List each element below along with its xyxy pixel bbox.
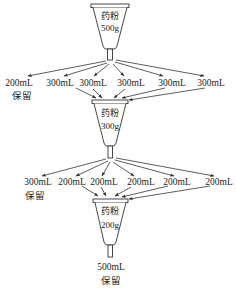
stage-2-output-1: 300mL [24,177,51,187]
funnel-3-label-top: 药粉 [101,206,119,216]
funnel-2-label-top: 药粉 [101,108,119,118]
funnel-2-label-bottom: 300g [101,121,119,131]
funnel-1-label-bottom: 500g [101,23,119,33]
stage-1-kept-note: 保留 [12,91,32,101]
stage-1-output-2: 300mL [46,78,73,88]
stage-2-output-2: 200mL [58,177,85,187]
stage-1-output-4: 300mL [117,78,144,88]
stage-1-output-6: 300mL [197,78,224,88]
arrows-stage-3-in [82,186,210,199]
funnel-1-label-top: 药粉 [101,11,119,21]
stage-1-output-1: 200mL [5,78,32,88]
stage-3-kept-note: 保留 [101,276,121,286]
stage-2-output-5: 200mL [163,177,190,187]
arrows-stage-2-in [76,88,205,100]
funnel-3-label-bottom: 200g [101,220,119,230]
stage-2-output-4: 200mL [127,177,154,187]
stage-2-kept-note: 保留 [25,191,45,201]
diagram-canvas [0,0,236,289]
stage-3-output-1: 500mL [97,262,124,272]
stage-2-output-3: 200mL [90,177,117,187]
stage-1-output-5: 300mL [158,78,185,88]
arrows-stage-1-out [28,60,204,76]
stage-2-output-6: 200mL [205,177,232,187]
stage-1-output-3: 300mL [79,78,106,88]
arrows-stage-2-out [42,158,214,176]
